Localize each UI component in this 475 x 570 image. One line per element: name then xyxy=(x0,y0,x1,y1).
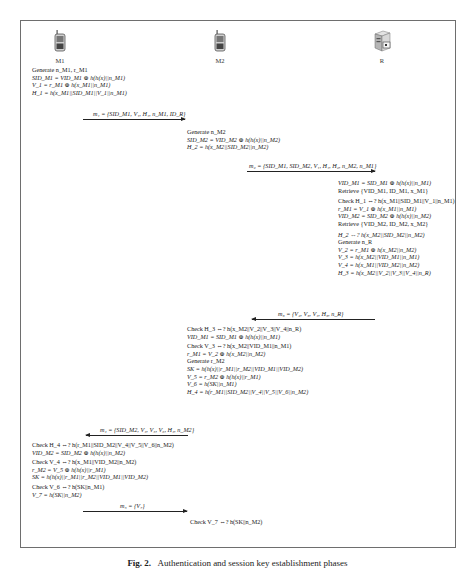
caption-text: Authentication and session key establish… xyxy=(157,558,347,568)
message-m3-arrow: m₃ = {V₂, V₃, V₄, H₃, n_R} xyxy=(252,308,375,320)
caption-prefix: Fig. 2. xyxy=(127,558,151,568)
figure-caption: Fig. 2. Authentication and session key e… xyxy=(0,558,475,568)
message-m5-arrow: m₅ = {V₇} xyxy=(83,500,187,512)
step: V_1 = r_M1 ⊕ h(x_M1||n_M1) xyxy=(32,81,127,89)
step: SID_M1 = VID_M1 ⊕ h(h(x)||n_M1) xyxy=(32,74,127,82)
step: Retrieve {VID_M2, ID_M2, x_M2} xyxy=(338,220,455,228)
step: Generate n_M2 xyxy=(187,128,280,136)
step: SK = h(h(x)||r_M1||r_M2||VID_M1||VID_M2) xyxy=(32,473,174,481)
step: V_4 = h(x_M1||VID_M2||n_M2) xyxy=(338,261,455,269)
step: r_M2 = V_5 ⊕ h(h(x)||r_M1) xyxy=(32,466,174,474)
step: Check V_7 ⇔? h(SK||n_M2) xyxy=(190,518,262,526)
step: Check H_4 ⇔? h(r_M1||SID_M2||V_4||V_5||V… xyxy=(32,441,174,449)
step: V_6 = h(SK||n_M1) xyxy=(187,380,308,388)
step: V_3 = h(x_M2||VID_M1||n_M1) xyxy=(338,253,455,261)
step: SID_M2 = VID_M2 ⊕ h(h(x)||n_M2) xyxy=(187,136,280,144)
step: Generate n_M1, r_M1 xyxy=(32,66,127,74)
step: V_5 = r_M2 ⊕ h(h(x)||r_M1) xyxy=(187,373,308,381)
arrow-line xyxy=(83,511,187,512)
message-m4-arrow: m₄ = {SID_M2, V₄, V₅, V₆, H₄, n_M2} xyxy=(86,424,188,436)
message-m1-arrow: m₁ = {SID_M1, V₁, H₁, n_M1, ID_R} xyxy=(83,108,185,120)
message-label: m₂ = {SID_M1, SID_M2, V₁, H₁, H₂, n_M2, … xyxy=(249,162,376,169)
message-label: m₁ = {SID_M1, V₁, H₁, n_M1, ID_R} xyxy=(93,110,186,117)
step: Check V_3 ⇔? h(x_M2||VID_M1||n_M1) xyxy=(187,342,308,350)
entity-m1: M1 xyxy=(45,30,75,64)
arrow-line xyxy=(86,435,188,436)
step: Check H_1 ⇔? h(x_M1||SID_M1||V_1||n_M1) xyxy=(338,197,455,205)
step: H_4 = h(r_M1||SID_M2||V_4||V_5||V_6||n_M… xyxy=(187,388,308,396)
m2-computation-block-1: Generate n_M2 SID_M2 = VID_M2 ⊕ h(h(x)||… xyxy=(187,128,280,151)
entity-r: R xyxy=(367,30,397,64)
entity-m2: M2 xyxy=(205,30,235,64)
arrow-line xyxy=(247,171,375,172)
r-computation-block: VID_M1 = SID_M1 ⊕ h(h(x)||n_M1) Retrieve… xyxy=(338,179,455,276)
message-label: m₃ = {V₂, V₃, V₄, H₃, n_R} xyxy=(278,310,344,317)
step: SK = h(h(x)||r_M1||r_M2||VID_M1||VID_M2) xyxy=(187,365,308,373)
server-icon xyxy=(372,30,392,52)
step: Check V_4 ⇔? h(x_M1||VID_M2||n_M2) xyxy=(32,458,174,466)
mobile-phone-icon xyxy=(54,30,66,52)
mobile-phone-icon xyxy=(214,30,226,52)
step: Retrieve {VID_M1, ID_M1, x_M1} xyxy=(338,187,455,195)
step: Generate n_R xyxy=(338,238,455,246)
entity-label: M2 xyxy=(205,57,235,64)
arrow-line xyxy=(252,319,375,320)
step: V_2 = r_M1 ⊕ h(x_M2||n_M2) xyxy=(338,246,455,254)
message-m2-arrow: m₂ = {SID_M1, SID_M2, V₁, H₁, H₂, n_M2, … xyxy=(247,160,375,172)
step: H_2 ⇔? h(x_M2||SID_M2||n_M2) xyxy=(338,231,455,239)
m1-computation-block-1: Generate n_M1, r_M1 SID_M1 = VID_M1 ⊕ h(… xyxy=(32,66,127,96)
step: H_2 = h(x_M2||SID_M2||n_M2) xyxy=(187,143,280,151)
m1-computation-block-2: Check H_4 ⇔? h(r_M1||SID_M2||V_4||V_5||V… xyxy=(32,441,174,498)
step: Check V_6 ⇔? h(SK||n_M1) xyxy=(32,483,174,491)
entity-label: M1 xyxy=(45,57,75,64)
step: Generate r_M2 xyxy=(187,357,308,365)
arrow-line xyxy=(83,119,185,120)
step: VID_M1 = SID_M1 ⊕ h(h(x)||n_M1) xyxy=(187,333,308,341)
message-label: m₄ = {SID_M2, V₄, V₅, V₆, H₄, n_M2} xyxy=(100,426,194,433)
step: VID_M2 = SID_M2 ⊕ h(h(x)||n_M2) xyxy=(32,449,174,457)
step: H_3 = h(x_M2||V_2||V_3||V_4||n_R) xyxy=(338,269,455,277)
message-label: m₅ = {V₇} xyxy=(120,502,145,509)
step: r_M1 = V_1 ⊕ h(x_M1||n_M1) xyxy=(338,205,455,213)
m2-computation-block-3: Check V_7 ⇔? h(SK||n_M2) xyxy=(190,518,262,526)
m2-computation-block-2: Check H_3 ⇔? h(x_M2||V_2||V_3||V_4||n_R)… xyxy=(187,325,308,395)
step: VID_M2 = SID_M2 ⊕ h(h(x)||n_M2) xyxy=(338,212,455,220)
step: Check H_3 ⇔? h(x_M2||V_2||V_3||V_4||n_R) xyxy=(187,325,308,333)
step: r_M1 = V_2 ⊕ h(x_M2||n_M2) xyxy=(187,350,308,358)
entity-label: R xyxy=(367,57,397,64)
step: H_1 = h(x_M1||SID_M1||V_1||n_M1) xyxy=(32,89,127,97)
step: VID_M1 = SID_M1 ⊕ h(h(x)||n_M1) xyxy=(338,179,455,187)
step: V_7 = h(SK||n_M2) xyxy=(32,491,174,499)
